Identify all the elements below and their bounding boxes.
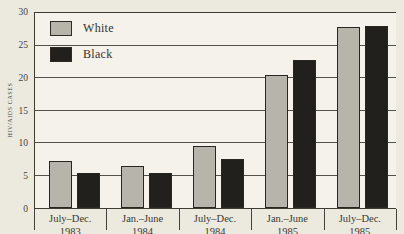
bar-group-2 [110,13,182,208]
y-tick-10: 10 [19,138,29,148]
bar-white-5 [337,27,360,208]
x-label-4: Jan.–June 1985 [251,209,323,234]
legend-swatch-white-icon [50,21,72,36]
x-axis-divider [396,209,397,230]
legend: White Black [50,21,114,73]
x-label-5: July–Dec. 1985 [324,209,396,234]
legend-label-black: Black [83,47,113,62]
x-label-3: July–Dec. 1984 [179,209,251,234]
bar-group-3 [182,13,254,208]
y-tick-25: 25 [19,40,29,50]
bar-group-5 [327,13,399,208]
y-tick-0: 0 [23,204,28,214]
legend-item-white: White [50,21,114,36]
x-axis-divider [34,209,35,230]
bar-white-3 [193,146,216,208]
y-axis-ticks: 051015202530 [0,12,31,209]
y-tick-15: 15 [19,106,29,116]
bar-white-2 [121,166,144,208]
x-axis-divider [106,209,107,230]
plot-area: White Black [34,12,396,209]
x-label-1: July–Dec. 1983 [34,209,106,234]
bar-white-4 [265,75,288,208]
bar-black-2 [149,173,172,208]
y-tick-20: 20 [19,73,29,83]
legend-swatch-black-icon [50,47,72,62]
x-axis-labels: July–Dec. 1983Jan.–June 1984July–Dec. 19… [34,209,396,234]
y-tick-30: 30 [19,7,29,17]
x-axis-divider [251,209,252,230]
bar-black-4 [293,60,316,208]
legend-item-black: Black [50,47,114,62]
x-axis-divider [324,209,325,230]
x-label-2: Jan.–June 1984 [106,209,178,234]
y-tick-5: 5 [23,171,28,181]
bar-black-5 [365,26,388,208]
legend-label-white: White [83,21,114,36]
bar-chart-figure: HIV/AIDS Cases 051015202530 White Black … [0,0,404,234]
bar-white-1 [49,161,72,208]
bar-group-4 [255,13,327,208]
x-axis-divider [179,209,180,230]
bar-black-1 [77,173,100,208]
bar-black-3 [221,159,244,208]
